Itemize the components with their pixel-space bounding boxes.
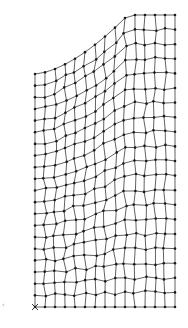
mesh-edge <box>134 60 136 75</box>
mesh-edge <box>74 256 76 268</box>
mesh-edges <box>35 15 175 307</box>
mesh-edge <box>126 43 135 46</box>
mesh-node <box>63 210 66 213</box>
mesh-edge <box>75 52 85 59</box>
mesh-node <box>174 116 177 119</box>
mesh-edge <box>105 187 106 200</box>
mesh-node <box>53 128 56 131</box>
mesh-edge <box>165 28 175 29</box>
mesh-edge <box>54 81 56 94</box>
mesh-edge <box>64 75 66 88</box>
mesh-edge <box>164 174 166 190</box>
mesh-edge <box>64 272 66 282</box>
mesh-edge <box>105 292 115 295</box>
mesh-edge <box>65 64 66 74</box>
mesh-edge <box>136 43 137 59</box>
mesh-edge <box>127 233 137 235</box>
mesh-edge <box>165 203 166 218</box>
mesh-node <box>53 269 56 272</box>
mesh-node <box>134 306 137 309</box>
mesh-edge <box>54 124 64 129</box>
mesh-node <box>53 211 56 214</box>
mesh-edge <box>63 256 73 259</box>
mesh-edge <box>134 73 144 74</box>
mesh-node <box>154 290 157 293</box>
mesh-edge <box>116 163 124 167</box>
mesh-edge <box>144 192 146 205</box>
mesh-edge <box>164 116 175 117</box>
mesh-edge <box>145 236 146 250</box>
mesh-edge <box>45 69 55 72</box>
mesh-edge <box>136 233 145 236</box>
mesh-node <box>163 292 166 295</box>
mesh-edge <box>57 185 66 188</box>
mesh-edge <box>44 154 45 166</box>
mesh-edge <box>165 44 175 45</box>
mesh-node <box>154 158 157 161</box>
mesh-node <box>144 88 147 91</box>
mesh-edge <box>153 101 163 103</box>
mesh-edge <box>164 72 166 89</box>
mesh-edge <box>85 214 96 219</box>
mesh-node <box>84 140 87 143</box>
mesh-edge <box>44 188 46 201</box>
mesh-node <box>104 280 107 283</box>
mesh-node <box>65 99 68 102</box>
mesh-edge <box>123 160 134 163</box>
mesh-edge <box>154 190 155 203</box>
mesh-node <box>102 103 105 106</box>
mesh-node <box>65 161 68 164</box>
mesh-node <box>95 84 98 87</box>
mesh-edge <box>135 146 144 148</box>
mesh-node <box>74 57 77 60</box>
mesh-node <box>134 101 137 104</box>
mesh-edge <box>155 265 156 278</box>
mesh-node <box>114 26 117 29</box>
mesh-node <box>164 233 167 236</box>
mesh-edge <box>63 235 66 248</box>
mesh-node <box>122 119 125 122</box>
mesh-edge <box>114 71 115 83</box>
mesh-node <box>164 144 167 147</box>
mesh-node <box>74 82 77 85</box>
mesh-edge <box>84 150 94 155</box>
mesh-node <box>45 258 48 261</box>
mesh-edge <box>124 132 134 134</box>
mesh-edge <box>125 278 134 280</box>
mesh-edge <box>156 160 157 175</box>
mesh-edge <box>113 248 125 250</box>
mesh-edge <box>86 266 95 270</box>
mesh-node <box>174 277 177 280</box>
mesh-edge <box>84 255 86 270</box>
mesh-edge <box>106 71 114 78</box>
mesh-node <box>102 142 105 145</box>
mesh-edge <box>123 147 125 163</box>
mesh-edge <box>35 85 45 86</box>
mesh-node <box>43 118 46 121</box>
mesh-edge <box>84 181 85 194</box>
mesh-edge <box>94 227 104 228</box>
mesh-node <box>64 112 67 115</box>
mesh-edge <box>95 203 96 214</box>
mesh-edge <box>55 188 57 201</box>
mesh-edge <box>64 87 66 100</box>
mesh-node <box>74 306 77 309</box>
mesh-node <box>174 233 177 236</box>
mesh-node <box>44 71 47 74</box>
mesh-node <box>114 277 117 280</box>
mesh-edge <box>153 101 154 117</box>
mesh-edge <box>144 146 156 147</box>
mesh-node <box>112 97 115 100</box>
mesh-edge <box>154 116 164 117</box>
mesh-node <box>85 269 88 272</box>
mesh-node <box>105 238 108 241</box>
mesh-node <box>44 143 47 146</box>
mesh-node <box>145 218 148 221</box>
mesh-edge <box>153 117 154 130</box>
mesh-edge <box>74 73 75 83</box>
mesh-edge <box>44 224 57 225</box>
mesh-node <box>174 189 177 192</box>
mesh-edge <box>105 278 115 281</box>
mesh-node <box>82 230 85 233</box>
mesh-edge <box>103 139 114 143</box>
